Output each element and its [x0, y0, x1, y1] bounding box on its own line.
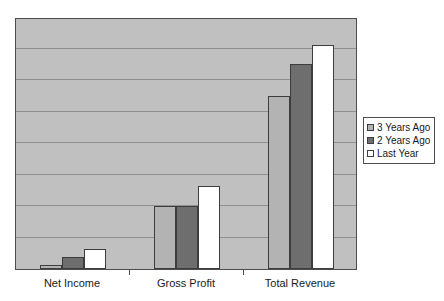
bar-group	[130, 19, 244, 269]
bar-group	[244, 19, 358, 269]
legend-swatch-3-years-ago	[367, 124, 374, 131]
legend-item-2-years-ago[interactable]: 2 Years Ago	[367, 134, 430, 147]
category-label-net-income: Net Income	[15, 277, 129, 290]
bar	[62, 257, 84, 269]
bar	[290, 64, 312, 269]
bar	[176, 206, 198, 269]
bar	[268, 96, 290, 269]
legend-swatch-last-year	[367, 150, 374, 157]
axis-tick	[129, 270, 130, 275]
bar-chart: Net IncomeGross ProfitTotal Revenue 3 Ye…	[0, 0, 444, 301]
plot-area	[15, 18, 357, 270]
bars-layer	[16, 19, 356, 269]
chart-legend: 3 Years Ago2 Years AgoLast Year	[363, 117, 435, 164]
legend-label: Last Year	[377, 148, 419, 160]
bar-group	[16, 19, 130, 269]
bar	[154, 206, 176, 269]
bar	[40, 265, 62, 269]
bar	[84, 249, 106, 269]
bar	[198, 186, 220, 269]
bar	[312, 45, 334, 269]
legend-label: 3 Years Ago	[377, 122, 430, 134]
legend-label: 2 Years Ago	[377, 135, 430, 147]
legend-item-last-year[interactable]: Last Year	[367, 147, 430, 160]
legend-item-3-years-ago[interactable]: 3 Years Ago	[367, 121, 430, 134]
category-label-total-revenue: Total Revenue	[243, 277, 357, 290]
category-label-gross-profit: Gross Profit	[129, 277, 243, 290]
axis-tick	[243, 270, 244, 275]
legend-swatch-2-years-ago	[367, 137, 374, 144]
